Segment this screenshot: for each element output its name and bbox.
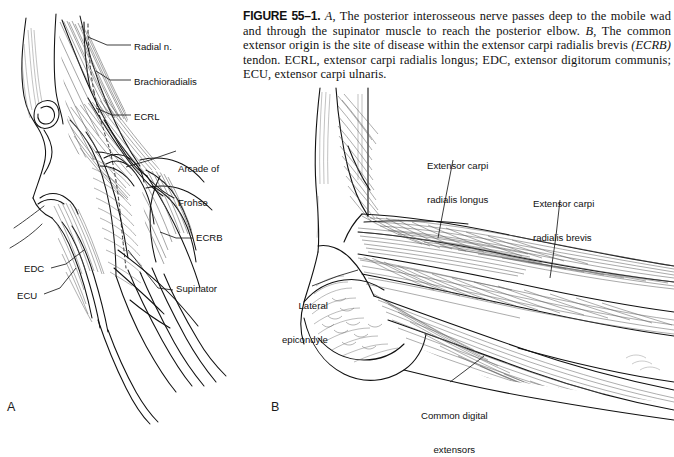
figure-number: FIGURE 55–1.	[243, 9, 320, 23]
label-ecrl: ECRL	[134, 111, 160, 122]
label-radial-nerve: Radial n.	[134, 41, 172, 52]
label-arcade-line1: Arcade of	[178, 163, 219, 174]
label-arcade-of-frohse: Arcade of Frohse	[178, 141, 219, 231]
label-ecrb-brev-line2: radialis brevis	[533, 232, 594, 243]
label-ecu: ECU	[17, 290, 37, 301]
label-brachioradialis: Brachioradialis	[134, 76, 197, 87]
leader-radial-n	[88, 37, 131, 45]
caption-ecrb-abbrev: (ECRB)	[631, 38, 671, 52]
label-common-dig-line2: extensors	[421, 444, 488, 455]
label-extensor-carpi-radialis-brevis: Extensor carpi radialis brevis	[533, 176, 594, 266]
label-ecrb: ECRB	[196, 232, 223, 243]
label-lat-epi-line1: Lateral	[282, 300, 328, 311]
panel-letter-a: A	[7, 400, 15, 414]
label-supinator: Supinator	[176, 283, 217, 294]
label-common-digital-extensors: Common digital extensors	[421, 388, 488, 457]
label-lat-epi-line2: epicondyle	[282, 334, 328, 345]
figure-caption: FIGURE 55–1. A, The posterior interosseo…	[243, 9, 671, 82]
leader-supinator	[128, 250, 173, 290]
label-ecrl-long-line1: Extensor carpi	[427, 160, 488, 171]
label-ecrl-long-line2: radialis longus	[427, 194, 488, 205]
label-arcade-line2: Frohse	[178, 197, 219, 208]
leader-ecrb	[160, 232, 193, 238]
label-extensor-carpi-radialis-longus: Extensor carpi radialis longus	[427, 138, 488, 228]
leader-ecu	[44, 268, 76, 294]
label-ecrb-brev-line1: Extensor carpi	[533, 198, 594, 209]
label-common-dig-line1: Common digital	[421, 410, 488, 421]
label-lateral-epicondyle: Lateral epicondyle	[282, 278, 328, 368]
label-edc: EDC	[24, 263, 44, 274]
caption-text-tail: tendon. ECRL, extensor carpi radialis lo…	[243, 53, 671, 82]
panel-letter-b: B	[271, 400, 279, 414]
